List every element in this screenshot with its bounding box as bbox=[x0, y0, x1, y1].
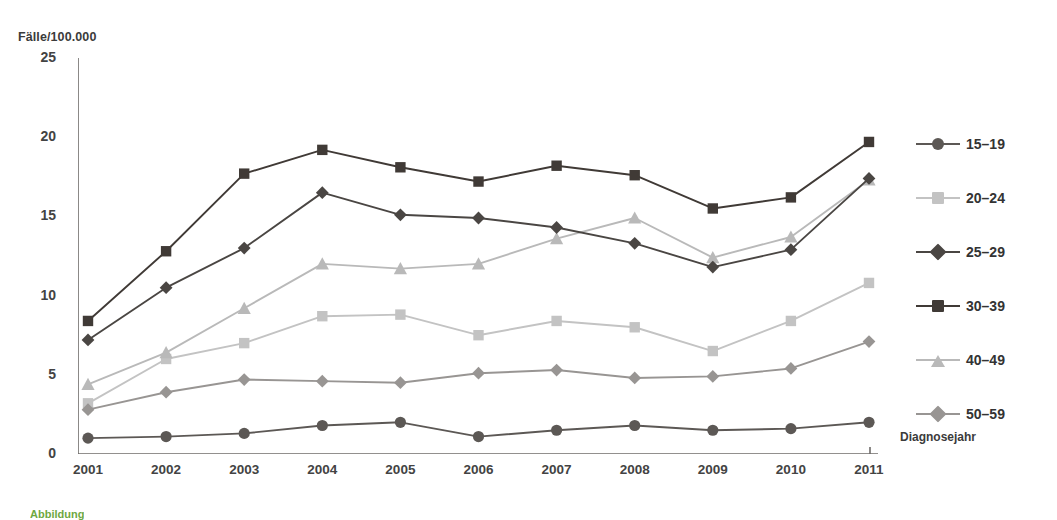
data-point-15-19-2005 bbox=[395, 417, 406, 428]
data-point-50-59-2006 bbox=[472, 367, 485, 380]
data-point-30-39-2006 bbox=[473, 176, 483, 186]
legend-label: 20–24 bbox=[966, 190, 1005, 206]
data-point-40-49-2003 bbox=[238, 302, 251, 314]
data-point-50-59-2004 bbox=[316, 375, 329, 388]
data-point-25-29-2006 bbox=[472, 212, 485, 225]
x-tick-2004: 2004 bbox=[292, 462, 352, 477]
legend-label: 15–19 bbox=[966, 136, 1005, 152]
data-point-20-24-2004 bbox=[317, 311, 327, 321]
legend-swatch-25-29 bbox=[916, 244, 960, 260]
x-tick-2010: 2010 bbox=[761, 462, 821, 477]
y-tick-10: 10 bbox=[22, 287, 56, 303]
legend-item-20-24[interactable]: 20–24 bbox=[916, 186, 1046, 210]
data-point-25-29-2008 bbox=[628, 237, 641, 250]
legend-item-25-29[interactable]: 25–29 bbox=[916, 240, 1046, 264]
chart-figure: Fälle/100.000 Diagnosejahr 0510152025 20… bbox=[0, 0, 1057, 520]
x-tick-2003: 2003 bbox=[214, 462, 274, 477]
series-20-24 bbox=[83, 278, 874, 409]
data-point-50-59-2005 bbox=[394, 376, 407, 389]
plot-area bbox=[78, 58, 878, 454]
data-point-30-39-2007 bbox=[551, 161, 561, 171]
legend-swatch-20-24 bbox=[916, 190, 960, 206]
data-point-30-39-2008 bbox=[630, 170, 640, 180]
data-point-40-49-2001 bbox=[81, 378, 94, 390]
figure-caption: Abbildung bbox=[30, 508, 84, 520]
data-point-15-19-2007 bbox=[551, 425, 562, 436]
series-30-39 bbox=[83, 137, 874, 326]
x-tick-2007: 2007 bbox=[527, 462, 587, 477]
legend-label: 40–49 bbox=[966, 352, 1005, 368]
x-tick-2005: 2005 bbox=[370, 462, 430, 477]
data-point-30-39-2011 bbox=[864, 137, 874, 147]
data-point-15-19-2002 bbox=[161, 431, 172, 442]
data-point-20-24-2009 bbox=[708, 346, 718, 356]
legend-label: 50–59 bbox=[966, 406, 1005, 422]
data-point-25-29-2003 bbox=[238, 242, 251, 255]
data-point-15-19-2006 bbox=[473, 431, 484, 442]
data-point-30-39-2010 bbox=[786, 192, 796, 202]
y-tick-5: 5 bbox=[22, 366, 56, 382]
data-point-15-19-2010 bbox=[785, 423, 796, 434]
data-point-15-19-2004 bbox=[317, 420, 328, 431]
data-point-30-39-2002 bbox=[161, 246, 171, 256]
y-tick-25: 25 bbox=[22, 49, 56, 65]
data-point-15-19-2008 bbox=[629, 420, 640, 431]
data-point-50-59-2010 bbox=[785, 362, 798, 375]
data-point-15-19-2003 bbox=[239, 428, 250, 439]
legend-square-marker-icon bbox=[932, 192, 944, 204]
data-point-50-59-2003 bbox=[238, 373, 251, 386]
legend-square-marker-icon bbox=[932, 300, 944, 312]
data-point-20-24-2006 bbox=[473, 330, 483, 340]
legend-diamond-marker-icon bbox=[930, 244, 947, 261]
data-point-15-19-2011 bbox=[863, 417, 874, 428]
legend-item-40-49[interactable]: 40–49 bbox=[916, 348, 1046, 372]
data-point-20-24-2003 bbox=[239, 338, 249, 348]
legend-item-50-59[interactable]: 50–59 bbox=[916, 402, 1046, 426]
data-point-30-39-2004 bbox=[317, 145, 327, 155]
legend-swatch-40-49 bbox=[916, 352, 960, 368]
x-tick-2006: 2006 bbox=[449, 462, 509, 477]
legend-label: 30–39 bbox=[966, 298, 1005, 314]
data-point-20-24-2005 bbox=[395, 309, 405, 319]
data-point-20-24-2011 bbox=[864, 278, 874, 288]
legend-swatch-50-59 bbox=[916, 406, 960, 422]
x-tick-2001: 2001 bbox=[58, 462, 118, 477]
data-point-50-59-2008 bbox=[628, 372, 641, 385]
x-tick-2002: 2002 bbox=[136, 462, 196, 477]
data-point-50-59-2007 bbox=[550, 364, 563, 377]
data-point-40-49-2002 bbox=[160, 346, 173, 358]
legend-circle-marker-icon bbox=[932, 138, 944, 150]
data-point-15-19-2009 bbox=[707, 425, 718, 436]
series-15-19 bbox=[82, 417, 874, 444]
series-line-40-49 bbox=[88, 180, 869, 384]
y-tick-0: 0 bbox=[22, 445, 56, 461]
data-point-20-24-2007 bbox=[551, 316, 561, 326]
data-point-40-49-2010 bbox=[784, 230, 797, 242]
data-point-15-19-2001 bbox=[82, 433, 93, 444]
y-tick-15: 15 bbox=[22, 207, 56, 223]
x-tick-2008: 2008 bbox=[605, 462, 665, 477]
data-point-30-39-2001 bbox=[83, 316, 93, 326]
data-point-25-29-2002 bbox=[160, 281, 173, 294]
legend-triangle-marker-icon bbox=[931, 355, 945, 367]
legend-item-15-19[interactable]: 15–19 bbox=[916, 132, 1046, 156]
legend-item-30-39[interactable]: 30–39 bbox=[916, 294, 1046, 318]
data-point-50-59-2009 bbox=[706, 370, 719, 383]
y-tick-20: 20 bbox=[22, 128, 56, 144]
data-point-50-59-2002 bbox=[160, 386, 173, 399]
series-line-30-39 bbox=[88, 142, 869, 321]
y-axis-title: Fälle/100.000 bbox=[18, 30, 96, 44]
data-point-20-24-2010 bbox=[786, 316, 796, 326]
legend-swatch-30-39 bbox=[916, 298, 960, 314]
series-50-59 bbox=[82, 335, 876, 416]
data-point-25-29-2004 bbox=[316, 186, 329, 199]
x-tick-2011: 2011 bbox=[839, 462, 899, 477]
data-point-30-39-2009 bbox=[708, 203, 718, 213]
legend-diamond-marker-icon bbox=[930, 406, 947, 423]
data-point-20-24-2008 bbox=[630, 322, 640, 332]
legend: 15–1920–2425–2930–3940–4950–59 bbox=[916, 132, 1046, 456]
x-tick-2009: 2009 bbox=[683, 462, 743, 477]
data-point-30-39-2005 bbox=[395, 162, 405, 172]
data-point-25-29-2007 bbox=[550, 221, 563, 234]
data-point-25-29-2005 bbox=[394, 208, 407, 221]
